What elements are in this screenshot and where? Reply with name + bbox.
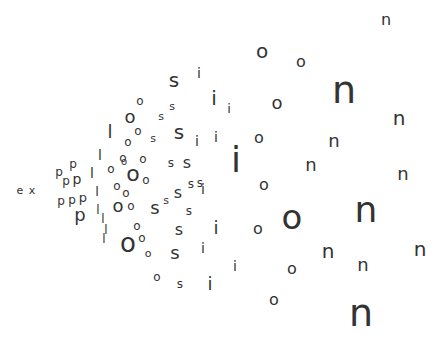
letter-o: o [139,153,146,165]
letter-x: x [29,185,36,196]
letter-n: n [349,294,373,332]
letter-l: l [101,213,104,225]
letter-o: o [138,232,145,244]
letter-o: o [287,261,297,277]
letter-s: s [177,278,183,290]
explosion-letter-graphic: exppppppppllllllllooooooooooooooooooosss… [0,0,441,342]
letter-i: i [195,134,199,148]
letter-s: s [188,178,194,190]
letter-i: i [207,275,212,293]
letter-o: o [282,200,303,234]
letter-s: s [183,155,191,171]
letter-i: i [214,130,218,144]
letter-o: o [256,41,268,61]
letter-s: s [150,199,159,217]
letter-s: s [163,195,169,206]
letter-o: o [269,292,279,308]
letter-e: e [17,185,24,196]
letter-n: n [393,108,406,128]
letter-s: s [174,122,184,142]
letter-o: o [112,197,123,215]
letter-l: l [98,148,102,162]
letter-o: o [259,177,269,193]
letter-s: s [186,205,192,217]
letter-o: o [126,163,139,185]
letter-n: n [332,71,356,109]
letter-p: p [74,206,85,224]
letter-l: l [96,204,99,216]
letter-s: s [150,133,156,144]
letter-o: o [153,271,160,283]
letter-s: s [168,157,174,169]
letter-o: o [134,125,141,137]
letter-p: p [69,158,77,170]
letter-n: n [381,12,391,28]
letter-i: i [201,241,205,255]
letter-p: p [57,195,65,207]
letter-i: i [201,182,205,196]
letter-i: i [211,88,217,108]
letter-s: s [174,185,182,201]
letter-i: i [231,142,241,178]
letter-n: n [357,256,368,274]
letter-n: n [322,241,335,261]
letter-o: o [107,163,114,175]
letter-s: s [170,244,179,262]
letter-o: o [120,230,136,256]
letter-p: p [73,172,82,186]
letter-i: i [213,219,218,237]
letter-l: l [95,185,99,198]
letter-o: o [145,248,152,259]
letter-o: o [127,200,134,212]
letter-i: i [227,102,231,115]
letter-o: o [254,130,264,146]
letter-s: s [169,101,175,112]
letter-n: n [414,239,427,259]
letter-n: n [355,192,378,228]
letter-s: s [169,70,179,90]
letter-n: n [305,156,316,174]
letter-l: l [102,233,105,245]
letter-i: i [197,66,201,80]
letter-l: l [90,166,94,180]
letter-o: o [271,94,282,112]
letter-p: p [62,175,70,187]
letter-o: o [124,136,131,148]
letter-o: o [136,95,143,107]
letter-o: o [113,180,120,192]
letter-s: s [175,222,183,238]
letter-n: n [397,165,408,183]
letter-s: s [158,111,164,122]
letter-o: o [253,221,263,237]
letter-o: o [296,54,306,70]
letter-n: n [328,132,339,150]
letter-p: p [79,191,87,204]
letter-o: o [142,174,149,186]
letter-i: i [233,259,237,273]
letter-l: l [107,123,112,141]
